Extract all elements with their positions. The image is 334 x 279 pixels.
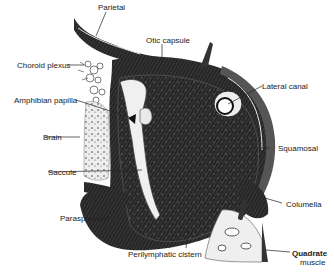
label-saccule: Saccule [48, 168, 76, 177]
label-otic-capsule: Otic capsule [146, 36, 190, 45]
label-parasphenoid: Parasphenoid [60, 214, 109, 223]
label-quadrate: Quadrate [292, 249, 327, 258]
label-muscle: muscle [300, 258, 325, 267]
label-parietal: Parietal [98, 3, 125, 12]
label-choroid-plexus: Choroid plexus [17, 61, 70, 70]
choroid-plexus [78, 61, 105, 103]
otic-capsule-spike [200, 42, 213, 68]
label-lateral-canal: Lateral canal [262, 82, 308, 91]
label-brain: Brain [43, 133, 62, 142]
label-squamosal: Squamosal [278, 144, 318, 153]
brain-tissue [84, 101, 110, 180]
label-amphibian-papilla: Amphibian papilla [14, 96, 77, 105]
label-perilymphatic-cistern: Perilymphatic cistern [128, 250, 202, 259]
label-columella: Columella [286, 200, 322, 209]
